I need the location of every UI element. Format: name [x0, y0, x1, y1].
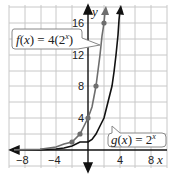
x-tick-label: −8 — [16, 154, 29, 166]
x-tick-label: −4 — [48, 154, 61, 166]
svg-text:g(x) = 2x: g(x) = 2x — [111, 132, 156, 147]
x-tick-label: 4 — [117, 154, 123, 166]
svg-text:f(x) = 4(2x): f(x) = 4(2x) — [16, 32, 73, 47]
x-axis-label: x — [156, 152, 163, 167]
y-axis-label: y — [90, 4, 98, 19]
exponential-graph: −8 −4 4 8 x 4 8 12 16 y f(x) = 4(2x) g(x… — [0, 0, 175, 176]
g-label-callout: g(x) = 2x — [108, 126, 166, 147]
y-tick-label: 8 — [78, 80, 84, 92]
y-tick-label: 12 — [72, 49, 84, 61]
x-tick-label: 8 — [148, 154, 154, 166]
y-tick-label: 16 — [72, 17, 84, 29]
y-tick-label: 4 — [78, 112, 84, 124]
